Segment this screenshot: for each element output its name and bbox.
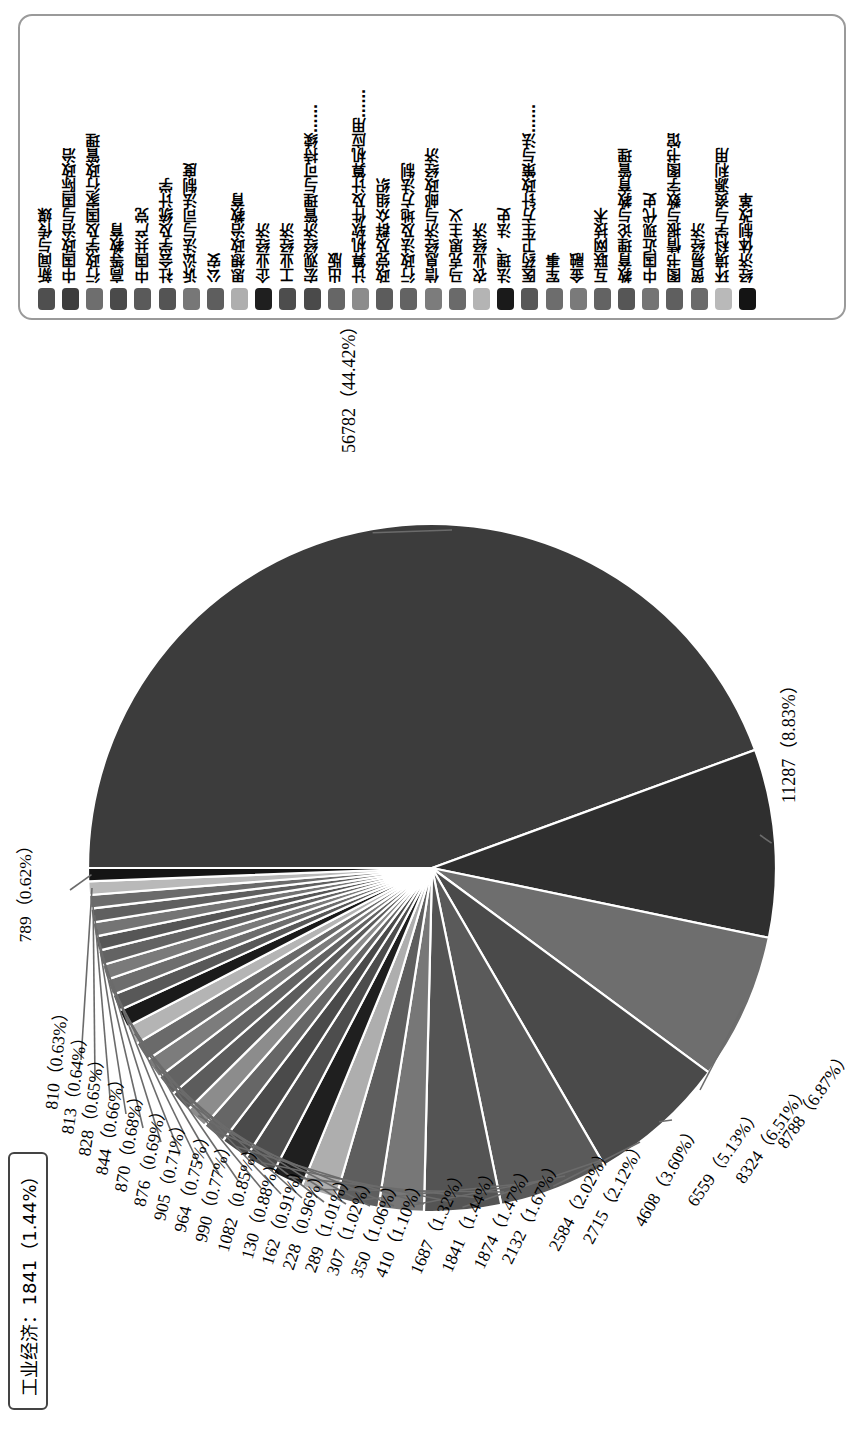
legend-item-label: 信息经济与邮政经济	[426, 148, 441, 283]
legend-item-label: 农业经济	[474, 223, 489, 283]
legend-color-swatch	[328, 288, 345, 310]
legend-item-label: 宏观经济管理与可持续……	[305, 104, 320, 283]
legend-item[interactable]: 出版	[324, 24, 348, 310]
legend-item[interactable]: 计算机软件及计算机应用……	[348, 24, 372, 310]
legend-item-label: 法理、法史	[498, 208, 513, 283]
legend-color-swatch	[38, 288, 55, 310]
legend-item-label: 教育理论与教育管理	[619, 148, 634, 283]
legend-item[interactable]: 政党及群众组织	[373, 24, 397, 310]
legend-color-swatch	[255, 288, 272, 310]
legend-color-swatch	[425, 288, 442, 310]
legend-item-label: 计算机软件及计算机应用……	[353, 89, 368, 283]
legend-item-label: 中国共产党	[136, 208, 151, 283]
pie-slice-value-label: 56782（44.42%）	[334, 317, 360, 454]
legend-color-swatch	[521, 288, 538, 310]
legend-item-label: 环境科学与资源利用	[716, 148, 731, 283]
tooltip-box: 工业经济：1841（1.44%）	[8, 1152, 48, 1410]
legend-color-swatch	[376, 288, 393, 310]
legend-item[interactable]: 高等教育	[107, 24, 131, 310]
legend-color-swatch	[570, 288, 587, 310]
legend-item-label: 马克思主义	[450, 208, 465, 283]
legend-color-swatch	[642, 288, 659, 310]
legend-color-swatch	[594, 288, 611, 310]
legend-color-swatch	[279, 288, 296, 310]
legend-item-label: 企业经济	[257, 223, 272, 283]
legend-item[interactable]: 社会学及统计学	[155, 24, 179, 310]
legend-item[interactable]: 信息经济与邮政经济	[421, 24, 445, 310]
legend-item-label: 政党及群众组织	[377, 178, 392, 283]
legend-color-swatch	[352, 288, 369, 310]
chart-canvas: 新闻与传媒中国政治与国际政治行政学及国家行政管理高等教育中国共产党社会学及统计学…	[0, 0, 864, 1436]
legend-color-swatch	[183, 288, 200, 310]
legend-color-swatch	[666, 288, 683, 310]
legend-item[interactable]: 经济体制改革	[735, 24, 759, 310]
legend-color-swatch	[134, 288, 151, 310]
legend-item[interactable]: 行政学及国家行政管理	[82, 24, 106, 310]
legend-item[interactable]: 教育理论与教育管理	[615, 24, 639, 310]
legend-item[interactable]: 诉讼法与司法制度	[179, 24, 203, 310]
legend-color-swatch	[618, 288, 635, 310]
pie-slice-value-label: 789（0.62%）	[11, 837, 36, 942]
legend-item[interactable]: 农业经济	[469, 24, 493, 310]
legend-item[interactable]: 工业经济	[276, 24, 300, 310]
legend-item[interactable]: 思想政治教育	[228, 24, 252, 310]
legend-item[interactable]: 新闻与传媒	[34, 24, 58, 310]
legend-item[interactable]: 法理、法史	[494, 24, 518, 310]
legend-item-label: 图书情报与数字图书馆	[668, 133, 683, 283]
legend-item-label: 出版	[329, 253, 344, 283]
legend-item[interactable]: 行政法及地方法制	[397, 24, 421, 310]
legend-color-swatch	[449, 288, 466, 310]
legend-item[interactable]: 公安	[203, 24, 227, 310]
legend-item-label: 高等教育	[111, 223, 126, 283]
legend-color-swatch	[739, 288, 756, 310]
legend-color-swatch	[110, 288, 127, 310]
legend-color-swatch	[304, 288, 321, 310]
legend-item[interactable]: 图书情报与数字图书馆	[663, 24, 687, 310]
legend-item[interactable]: 企业经济	[252, 24, 276, 310]
legend-item[interactable]: 中国政治与国际政治	[58, 24, 82, 310]
legend-color-swatch	[62, 288, 79, 310]
legend-item[interactable]: 金融	[566, 24, 590, 310]
legend-item-label: 中国政治与国际政治	[63, 148, 78, 283]
legend-color-swatch	[159, 288, 176, 310]
legend-item-label: 经济体制改革	[740, 193, 755, 283]
legend-item-label: 工业经济	[281, 223, 296, 283]
pie-svg	[0, 330, 864, 1436]
legend-item-label: 新闻与传媒	[39, 208, 54, 283]
legend-item[interactable]: 中国共产党	[131, 24, 155, 310]
legend-item-label: 军事	[547, 253, 562, 283]
legend-item[interactable]: 马克思主义	[445, 24, 469, 310]
legend-item-label: 医药卫生方针政策与法……	[523, 104, 538, 283]
legend-panel: 新闻与传媒中国政治与国际政治行政学及国家行政管理高等教育中国共产党社会学及统计学…	[18, 14, 846, 320]
legend-color-swatch	[715, 288, 732, 310]
legend-color-swatch	[473, 288, 490, 310]
legend-item-label: 互联网技术	[595, 208, 610, 283]
legend-item-label: 思想政治教育	[232, 193, 247, 283]
legend-item[interactable]: 军事	[542, 24, 566, 310]
legend-item[interactable]: 贸易经济	[687, 24, 711, 310]
legend-item-label: 贸易经济	[692, 223, 707, 283]
legend-item-label: 行政法及地方法制	[402, 163, 417, 283]
legend-color-swatch	[231, 288, 248, 310]
legend-color-swatch	[497, 288, 514, 310]
pie-chart-area: 56782（44.42%）11287（8.83%）8788（6.87%）8324…	[0, 330, 864, 1436]
legend-item-label: 行政学及国家行政管理	[87, 133, 102, 283]
legend-color-swatch	[400, 288, 417, 310]
legend-color-swatch	[691, 288, 708, 310]
legend-item[interactable]: 中国近现代史	[639, 24, 663, 310]
legend-item-label: 社会学及统计学	[160, 178, 175, 283]
legend-color-swatch	[546, 288, 563, 310]
legend-item[interactable]: 医药卫生方针政策与法……	[518, 24, 542, 310]
legend-color-swatch	[86, 288, 103, 310]
legend-item-label: 诉讼法与司法制度	[184, 163, 199, 283]
legend-item[interactable]: 互联网技术	[590, 24, 614, 310]
legend-item[interactable]: 宏观经济管理与可持续……	[300, 24, 324, 310]
pie-slice-value-label: 11287（8.83%）	[774, 676, 800, 803]
tooltip-label: 工业经济：1841（1.44%）	[15, 1167, 41, 1396]
legend-item-label: 中国近现代史	[644, 193, 659, 283]
legend-items-container: 新闻与传媒中国政治与国际政治行政学及国家行政管理高等教育中国共产党社会学及统计学…	[34, 24, 760, 310]
legend-item-label: 金融	[571, 253, 586, 283]
legend-item[interactable]: 环境科学与资源利用	[711, 24, 735, 310]
legend-color-swatch	[207, 288, 224, 310]
legend-item-label: 公安	[208, 253, 223, 283]
